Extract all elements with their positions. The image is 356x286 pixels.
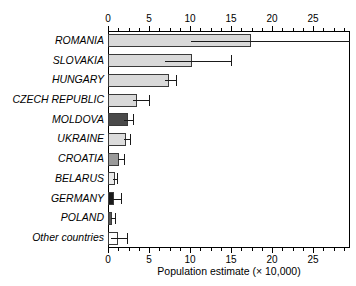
error-bar-cap [127, 233, 128, 244]
category-label-germany: GERMANY [0, 192, 104, 205]
bar-container [108, 149, 356, 169]
population-estimate-bar-chart: 0510152025 0510152025 ROMANIASLOVAKIAHUN… [0, 0, 356, 286]
bar-container [108, 70, 356, 90]
category-label-poland: POLAND [0, 211, 104, 224]
bar-container [108, 130, 356, 150]
error-bar-cap [149, 95, 150, 106]
bar-container [108, 51, 356, 71]
x-axis-title: Population estimate (× 10,000) [108, 265, 350, 277]
bar-row: SLOVAKIA [0, 51, 356, 71]
axis-minor-tick [293, 248, 294, 251]
error-bar-cap [124, 154, 125, 165]
axis-tick-label: 25 [300, 254, 326, 265]
error-bar-cap [133, 114, 134, 125]
error-bar-cap [117, 173, 118, 184]
bar-container [108, 189, 356, 209]
error-bar-line [124, 120, 133, 121]
axis-tick-label: 5 [136, 13, 162, 24]
category-label-belarus: BELARUS [0, 172, 104, 185]
bar-hungary [108, 74, 169, 87]
error-bar-line [165, 80, 176, 81]
category-label-croatia: CROATIA [0, 152, 104, 165]
axis-minor-tick [129, 248, 130, 251]
error-bar-cap [231, 55, 232, 66]
bar-ukraine [108, 133, 126, 146]
bar-row: GERMANY [0, 189, 356, 209]
axis-major-tick [190, 248, 191, 253]
axis-major-tick [149, 248, 150, 253]
bar-czech-republic [108, 94, 137, 107]
error-bar-line [133, 100, 149, 101]
axis-minor-tick [344, 248, 345, 251]
axis-tick-label: 0 [95, 254, 121, 265]
axis-minor-tick [139, 248, 140, 251]
axis-minor-tick [323, 248, 324, 251]
bar-container [108, 209, 356, 229]
category-label-romania: ROMANIA [0, 34, 104, 47]
error-bar-line [165, 61, 231, 62]
axis-minor-tick [170, 248, 171, 251]
bar-row: BELARUS [0, 169, 356, 189]
axis-major-tick [313, 248, 314, 253]
bar-row: UKRAINE [0, 130, 356, 150]
bar-row: POLAND [0, 209, 356, 229]
bar-container [108, 31, 356, 51]
error-bar-cap [121, 193, 122, 204]
axis-tick-label: 15 [218, 13, 244, 24]
axis-minor-tick [303, 248, 304, 251]
bar-row: ROMANIA [0, 31, 356, 51]
axis-minor-tick [159, 248, 160, 251]
axis-minor-tick [200, 248, 201, 251]
axis-minor-tick [211, 248, 212, 251]
category-label-hungary: HUNGARY [0, 73, 104, 86]
axis-minor-tick [282, 248, 283, 251]
axis-major-tick [108, 248, 109, 253]
bar-container [108, 169, 356, 189]
axis-tick-label: 0 [95, 13, 121, 24]
category-label-moldova: MOLDOVA [0, 113, 104, 126]
bar-row: Other countries [0, 228, 356, 248]
bar-container [108, 228, 356, 248]
bar-row: HUNGARY [0, 70, 356, 90]
bar-row: MOLDOVA [0, 110, 356, 130]
category-label-czech-republic: CZECH REPUBLIC [0, 93, 104, 106]
error-bar-line [110, 199, 121, 200]
axis-minor-tick [334, 248, 335, 251]
bar-row: CZECH REPUBLIC [0, 90, 356, 110]
bar-container [108, 90, 356, 110]
axis-tick-label: 25 [300, 13, 326, 24]
bar-row: CROATIA [0, 149, 356, 169]
axis-tick-label: 20 [259, 13, 285, 24]
axis-major-tick [272, 248, 273, 253]
error-bar-cap [115, 213, 116, 224]
axis-minor-tick [180, 248, 181, 251]
axis-minor-tick [221, 248, 222, 251]
axis-major-tick [231, 248, 232, 253]
category-label-ukraine: UKRAINE [0, 132, 104, 145]
axis-tick-label: 20 [259, 254, 285, 265]
axis-minor-tick [241, 248, 242, 251]
axis-minor-tick [118, 248, 119, 251]
axis-minor-tick [252, 248, 253, 251]
axis-tick-label: 10 [177, 254, 203, 265]
axis-minor-tick [262, 248, 263, 251]
error-bar-line [111, 238, 127, 239]
bar-rows: ROMANIASLOVAKIAHUNGARYCZECH REPUBLICMOLD… [0, 31, 356, 248]
error-bar-cap [176, 75, 177, 86]
bar-container [108, 110, 356, 130]
axis-tick-label: 5 [136, 254, 162, 265]
category-label-other-countries: Other countries [0, 231, 104, 244]
error-bar-line [191, 41, 350, 42]
axis-tick-label: 10 [177, 13, 203, 24]
axis-tick-label: 15 [218, 254, 244, 265]
category-label-slovakia: SLOVAKIA [0, 54, 104, 67]
error-bar-cap [130, 134, 131, 145]
